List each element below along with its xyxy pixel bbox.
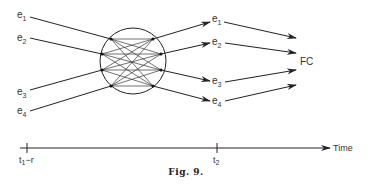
figure-caption: Fig. 9. [168, 167, 203, 177]
input-label-e4: e4 [17, 105, 27, 118]
output-labels: e1 e2 e3 e4 [212, 13, 222, 108]
input-label-e3: e3 [17, 86, 27, 99]
input-lines [30, 17, 111, 111]
output-label-e1: e1 [212, 13, 222, 26]
input-label-e2: e2 [17, 32, 27, 45]
tick-label-t2: t2 [213, 155, 220, 166]
tick-label-t1-r: t1−r [19, 155, 34, 166]
time-axis: Time t1−r t2 [19, 143, 353, 166]
input-label-e1: e1 [17, 9, 27, 22]
fc-label: FC [300, 56, 313, 67]
fc-arrows [224, 22, 296, 101]
time-axis-label: Time [333, 143, 353, 153]
input-labels: e1 e2 e3 e4 [17, 9, 27, 118]
output-label-e4: e4 [212, 95, 222, 108]
figure-diagram: e1 e2 e3 e4 [0, 0, 372, 185]
output-label-e3: e3 [212, 75, 222, 88]
output-arrows [153, 22, 210, 101]
output-label-e2: e2 [212, 36, 222, 49]
